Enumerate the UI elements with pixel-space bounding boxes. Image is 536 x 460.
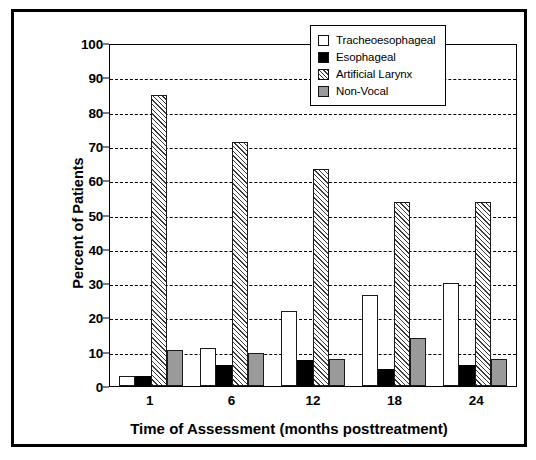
bar-esophageal-1	[135, 376, 151, 386]
bars	[200, 45, 264, 386]
y-tick-label-30: 30	[63, 277, 103, 292]
bar-tracheoesophageal-18	[362, 295, 378, 386]
y-tick-label-70: 70	[63, 139, 103, 154]
bar-non-vocal-18	[410, 338, 426, 386]
bar-esophageal-18	[378, 369, 394, 386]
y-tick-label-60: 60	[63, 174, 103, 189]
legend-swatch-icon-1	[318, 52, 329, 63]
x-tick-label-18: 18	[354, 393, 436, 408]
bar-artificial-larynx-12	[313, 169, 329, 386]
bar-artificial-larynx-6	[232, 142, 248, 386]
x-axis-ticks: 16121824	[109, 393, 517, 408]
legend-swatch-icon-0	[318, 35, 329, 46]
bar-non-vocal-24	[491, 359, 507, 386]
bar-artificial-larynx-18	[394, 202, 410, 386]
legend-label: Artificial Larynx	[336, 68, 412, 80]
legend-item-esophageal: Esophageal	[318, 49, 436, 65]
bar-esophageal-24	[459, 365, 475, 386]
bar-non-vocal-12	[329, 359, 345, 386]
legend-label: Esophageal	[336, 51, 396, 63]
bar-tracheoesophageal-1	[119, 376, 135, 386]
x-tick-label-12: 12	[272, 393, 354, 408]
x-tick-label-24: 24	[435, 393, 517, 408]
y-tick-label-20: 20	[63, 311, 103, 326]
y-tick-label-10: 10	[63, 345, 103, 360]
legend-swatch-icon-3	[318, 86, 329, 97]
bar-group-6	[191, 45, 272, 386]
bar-tracheoesophageal-6	[200, 348, 216, 386]
chart-legend: TracheoesophagealEsophagealArtificial La…	[310, 25, 446, 106]
legend-swatch-icon-2	[318, 69, 329, 80]
bar-artificial-larynx-24	[475, 202, 491, 386]
x-axis-title: Time of Assessment (months posttreatment…	[54, 420, 524, 437]
legend-item-artificial-larynx: Artificial Larynx	[318, 66, 436, 82]
legend-item-non-vocal: Non-Vocal	[318, 83, 436, 99]
figure-frame: Percent of Patients 01020304050607080901…	[11, 9, 527, 447]
bar-tracheoesophageal-12	[281, 311, 297, 386]
x-tick-label-6: 6	[191, 393, 273, 408]
bar-esophageal-6	[216, 365, 232, 386]
bar-group-1	[110, 45, 191, 386]
y-tick-label-40: 40	[63, 242, 103, 257]
bar-non-vocal-1	[167, 350, 183, 386]
legend-label: Tracheoesophageal	[336, 34, 436, 46]
y-tick-label-100: 100	[63, 37, 103, 52]
y-axis-ticks: 0102030405060708090100	[57, 44, 103, 387]
chart-page: Percent of Patients 01020304050607080901…	[0, 0, 536, 460]
legend-item-tracheoesophageal: Tracheoesophageal	[318, 32, 436, 48]
y-tick-label-50: 50	[63, 208, 103, 223]
bar-artificial-larynx-1	[151, 95, 167, 386]
bars	[443, 45, 507, 386]
bar-non-vocal-6	[248, 353, 264, 386]
x-tick-label-1: 1	[109, 393, 191, 408]
legend-label: Non-Vocal	[336, 85, 388, 97]
y-tick-label-90: 90	[63, 71, 103, 86]
bar-group-24	[435, 45, 516, 386]
y-tick-label-80: 80	[63, 105, 103, 120]
y-tick-label-0: 0	[63, 380, 103, 395]
bar-tracheoesophageal-24	[443, 283, 459, 386]
bars	[119, 45, 183, 386]
bar-esophageal-12	[297, 360, 313, 386]
